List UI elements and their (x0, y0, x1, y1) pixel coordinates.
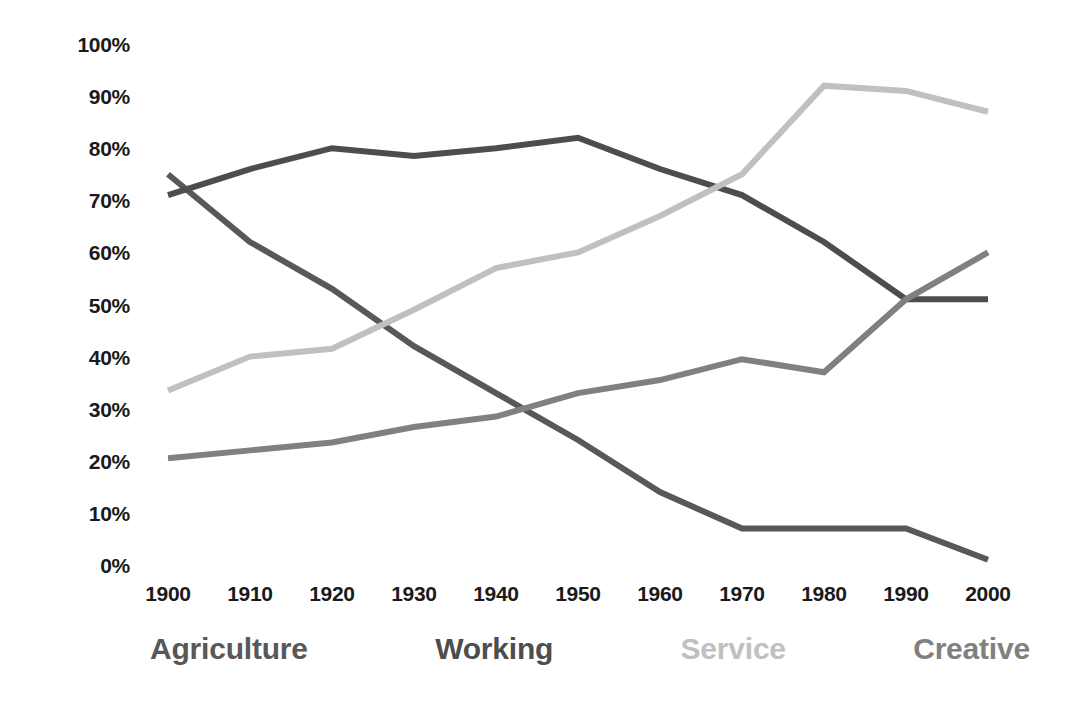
series-line-agriculture (168, 174, 988, 560)
series-line-working (168, 138, 988, 300)
chart-container: 100%90%80%70%60%50%40%30%20%10%0% 190019… (0, 0, 1068, 709)
legend: AgricultureWorkingServiceCreative (150, 634, 1030, 664)
plot-area (0, 0, 1068, 709)
legend-item-working[interactable]: Working (435, 634, 553, 664)
legend-item-creative[interactable]: Creative (913, 634, 1030, 664)
series-line-service (168, 86, 988, 391)
legend-item-agriculture[interactable]: Agriculture (150, 634, 308, 664)
legend-item-service[interactable]: Service (681, 634, 786, 664)
